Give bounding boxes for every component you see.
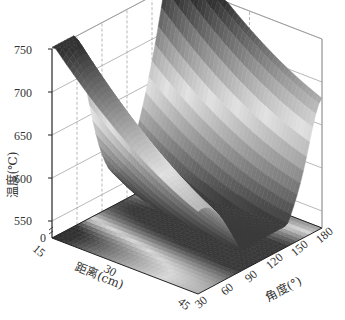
z-tick-650: 650: [14, 129, 32, 143]
z-tick-550: 550: [14, 214, 32, 228]
z-tick-750: 750: [14, 43, 32, 57]
surface-chart: 750 700 650 600 550 0 温度(℃) 15 30 45 距离(…: [0, 0, 345, 320]
x-tick-45: 45: [175, 295, 193, 313]
z-tick-700: 700: [14, 86, 32, 100]
y-axis-title: 角度(°): [262, 273, 304, 305]
y-tick-30: 30: [192, 293, 210, 311]
z-axis-title: 温度(℃): [5, 152, 20, 199]
y-tick-60: 60: [218, 280, 236, 298]
